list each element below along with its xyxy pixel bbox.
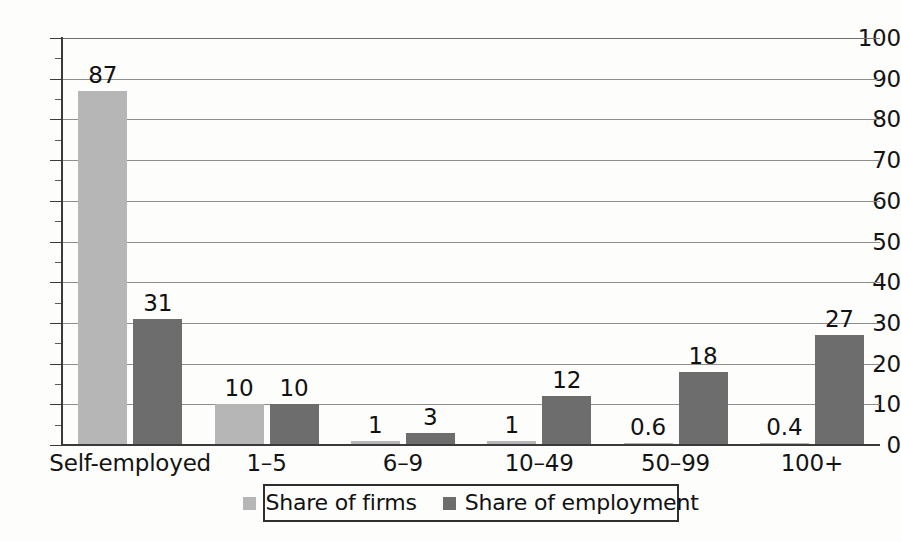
legend-swatch-icon-employment: [443, 497, 456, 510]
legend-item-share-of-employment: Share of employment: [443, 492, 699, 514]
x-axis-label: 6–9: [383, 452, 423, 475]
gridline: [62, 201, 880, 202]
bar-firms: [215, 404, 264, 445]
bar-firms: [78, 91, 127, 445]
bar-employment: [270, 404, 319, 445]
bar-value-label: 10: [280, 377, 309, 400]
bar-value-label: 10: [225, 377, 254, 400]
legend-label-firms: Share of firms: [265, 492, 416, 514]
x-axis-label: 10–49: [505, 452, 574, 475]
bar-value-label: 27: [825, 308, 854, 331]
bar-employment: [133, 319, 182, 445]
bar-value-label: 0.4: [766, 416, 802, 439]
bar-employment: [542, 396, 591, 445]
gridline: [62, 38, 880, 39]
x-axis-label: 50–99: [641, 452, 710, 475]
chart-legend: Share of firms Share of employment: [263, 484, 679, 522]
y-axis-line: [61, 37, 63, 446]
gridline: [62, 242, 880, 243]
bar-employment: [679, 372, 728, 445]
bar-employment: [815, 335, 864, 445]
x-axis-line: [61, 444, 880, 446]
x-axis-label: 1–5: [246, 452, 286, 475]
bar-value-label: 87: [88, 64, 117, 87]
gridline: [62, 119, 880, 120]
bar-value-label: 3: [423, 406, 437, 429]
bar-value-label: 31: [143, 292, 172, 315]
legend-swatch-icon-firms: [243, 497, 256, 510]
gridline: [62, 323, 880, 324]
gridline: [62, 160, 880, 161]
bar-value-label: 1: [368, 414, 382, 437]
gridline: [62, 364, 880, 365]
gridline: [62, 404, 880, 405]
bar-value-label: 0.6: [630, 416, 666, 439]
gridline: [62, 282, 880, 283]
x-axis-label: 100+: [781, 452, 843, 475]
gridline: [62, 79, 880, 80]
bar-value-label: 1: [504, 414, 518, 437]
x-axis-label: Self-employed: [49, 452, 211, 475]
chart-figure: 0102030405060708090100 87311010131120.61…: [0, 0, 901, 542]
bar-value-label: 18: [689, 345, 718, 368]
legend-item-share-of-firms: Share of firms: [243, 492, 416, 514]
bar-value-label: 12: [552, 369, 581, 392]
legend-label-employment: Share of employment: [465, 492, 699, 514]
plot-area: [62, 38, 880, 445]
